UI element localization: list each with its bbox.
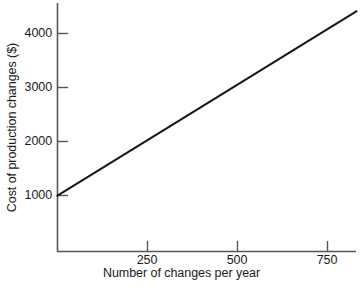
- x-axis-title: Number of changes per year: [0, 266, 363, 280]
- chart-canvas: [0, 0, 363, 289]
- chart-background: [0, 0, 363, 289]
- x-tick-label-250: 250: [137, 253, 158, 267]
- y-axis-title: Cost of production changes ($): [3, 3, 21, 252]
- chart-figure: 4000 3000 2000 1000 250 500 750 Number o…: [0, 0, 363, 289]
- x-tick-label-500: 500: [227, 253, 248, 267]
- x-tick-label-750: 750: [317, 253, 338, 267]
